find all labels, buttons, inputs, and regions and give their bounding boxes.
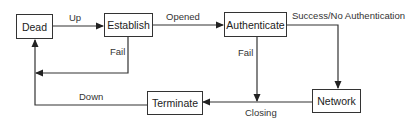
- state-label: Terminate: [152, 97, 198, 109]
- state-label: Network: [317, 95, 356, 107]
- state-network: Network: [312, 89, 361, 113]
- label-closing: Closing: [245, 107, 277, 118]
- label-establish-fail: Fail: [110, 46, 125, 57]
- label-down: Down: [79, 91, 103, 102]
- state-label: Establish: [107, 19, 150, 31]
- label-up: Up: [69, 12, 81, 23]
- label-success: Success/No Authentication: [292, 10, 405, 21]
- state-authenticate: Authenticate: [224, 12, 287, 37]
- state-dead: Dead: [16, 14, 53, 39]
- arrow-success: [286, 25, 338, 88]
- label-authenticate-fail: Fail: [238, 47, 253, 58]
- state-terminate: Terminate: [147, 91, 203, 115]
- state-establish: Establish: [104, 13, 153, 37]
- state-label: Authenticate: [226, 19, 284, 31]
- state-label: Dead: [22, 21, 47, 33]
- label-opened: Opened: [166, 11, 200, 22]
